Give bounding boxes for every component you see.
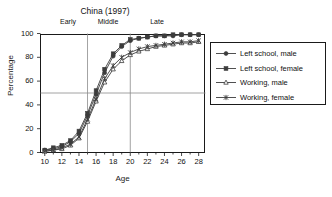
data-point-marker bbox=[120, 44, 124, 48]
legend-marker-filled-circle-icon bbox=[215, 48, 237, 59]
data-point-marker bbox=[145, 35, 149, 39]
x-axis-label: Age bbox=[40, 174, 205, 183]
legend: Left school, maleLeft school, femaleWork… bbox=[210, 42, 326, 105]
data-point-marker bbox=[188, 33, 192, 37]
y-tick-label-40: 40 bbox=[8, 100, 34, 109]
x-tick-label-16: 16 bbox=[88, 157, 104, 166]
legend-marker-filled-square-icon bbox=[215, 63, 237, 74]
legend-item-1[interactable]: Left school, female bbox=[215, 61, 303, 76]
data-point-marker bbox=[94, 89, 98, 93]
x-tick-label-10: 10 bbox=[37, 157, 53, 166]
y-tick-label-100: 100 bbox=[8, 29, 34, 38]
data-point-marker bbox=[171, 33, 175, 37]
data-point-marker bbox=[137, 36, 141, 40]
legend-label-2: Working, male bbox=[240, 78, 288, 87]
y-tick-label-20: 20 bbox=[8, 124, 34, 133]
legend-item-2[interactable]: Working, male bbox=[215, 75, 288, 90]
legend-item-3[interactable]: Working, female bbox=[215, 90, 294, 105]
data-point-marker bbox=[154, 34, 158, 38]
data-point-marker bbox=[102, 76, 106, 81]
x-tick-label-26: 26 bbox=[174, 157, 190, 166]
data-point-marker bbox=[224, 52, 228, 56]
data-point-marker bbox=[77, 134, 81, 139]
chart-figure: China (1997) Early Middle Late Percentag… bbox=[0, 0, 332, 197]
x-tick-label-12: 12 bbox=[54, 157, 70, 166]
y-tick-label-80: 80 bbox=[8, 52, 34, 61]
x-tick-label-24: 24 bbox=[156, 157, 172, 166]
series-1 bbox=[43, 33, 201, 152]
data-point-marker bbox=[77, 129, 81, 133]
data-point-marker bbox=[120, 55, 124, 60]
x-tick-label-22: 22 bbox=[139, 157, 155, 166]
data-point-marker bbox=[180, 33, 184, 37]
x-tick-label-14: 14 bbox=[71, 157, 87, 166]
data-point-marker bbox=[111, 63, 115, 68]
data-point-marker bbox=[224, 80, 228, 84]
y-tick-label-60: 60 bbox=[8, 76, 34, 85]
legend-label-1: Left school, female bbox=[240, 64, 303, 73]
data-point-marker bbox=[103, 67, 107, 71]
legend-label-3: Working, female bbox=[240, 93, 294, 102]
data-point-marker bbox=[86, 111, 90, 115]
x-tick-label-28: 28 bbox=[191, 157, 207, 166]
data-point-marker bbox=[128, 38, 132, 42]
series-line bbox=[45, 35, 199, 150]
legend-label-0: Left school, male bbox=[240, 49, 297, 58]
data-point-marker bbox=[128, 50, 132, 55]
legend-item-0[interactable]: Left school, male bbox=[215, 46, 297, 61]
data-point-marker bbox=[111, 52, 115, 56]
x-tick-label-20: 20 bbox=[122, 157, 138, 166]
series-line bbox=[45, 35, 199, 150]
series-0 bbox=[43, 33, 201, 152]
x-tick-label-18: 18 bbox=[105, 157, 121, 166]
legend-marker-open-triangle-icon bbox=[215, 77, 237, 88]
data-point-marker bbox=[163, 34, 167, 38]
y-tick-label-0: 0 bbox=[8, 148, 34, 157]
data-point-marker bbox=[197, 33, 201, 37]
series-3 bbox=[43, 38, 201, 154]
data-point-marker bbox=[224, 66, 228, 70]
legend-marker-cross-star-icon bbox=[215, 92, 237, 103]
